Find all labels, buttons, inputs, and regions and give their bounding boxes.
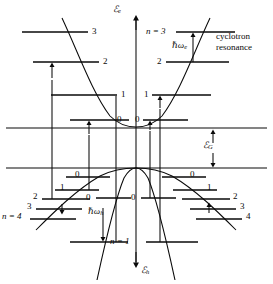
level-label-lh-left-0: 0 xyxy=(86,193,91,202)
axis-label-electron-energy: ℰe xyxy=(113,5,121,15)
level-label-v-right-0: 0 xyxy=(190,170,195,179)
level-label-v-left-4: n = 4 xyxy=(2,212,22,221)
band-gap-label: ℰG xyxy=(203,141,213,151)
level-label-c-left-3: 3 xyxy=(92,27,97,36)
hbar-omega-h-label: ℏωh xyxy=(88,207,103,217)
level-label-v-left-1: 1 xyxy=(60,183,65,192)
conduction-levels-left xyxy=(22,32,129,120)
level-label-c-left-2: 2 xyxy=(103,57,108,66)
cyclotron-resonance-label: cyclotron resonance xyxy=(216,31,252,52)
light-hole-level-label: n = 1 xyxy=(110,237,130,246)
level-label-v-left-3: 3 xyxy=(27,202,32,211)
level-label-v-left-2: 2 xyxy=(33,192,38,201)
level-label-c-left-0: 0 xyxy=(117,115,122,124)
level-label-lh-right-0: 0 xyxy=(131,193,136,202)
interband-transition-arrows xyxy=(52,80,160,242)
level-label-v-right-4: 4 xyxy=(246,212,251,221)
level-label-v-right-3: 3 xyxy=(240,202,245,211)
level-label-c-right-3: n = 3 xyxy=(146,27,166,36)
level-label-v-right-1: 1 xyxy=(207,183,212,192)
hbar-omega-e-label: ℏωe xyxy=(172,41,187,51)
valence-levels-light-hole xyxy=(70,198,198,242)
level-label-v-right-2: 2 xyxy=(233,192,238,201)
level-label-c-left-1: 1 xyxy=(121,90,126,99)
level-label-c-right-0: 0 xyxy=(135,115,140,124)
level-label-v-left-0: 0 xyxy=(75,170,80,179)
landau-level-diagram: ℰe ℰh 3 2 1 0 n = 3 2 1 0 ℏωe cyclotron … xyxy=(0,0,273,284)
axis-label-hole-energy: ℰh xyxy=(141,266,149,276)
level-label-c-right-1: 1 xyxy=(144,90,149,99)
level-label-c-right-2: 2 xyxy=(157,57,162,66)
